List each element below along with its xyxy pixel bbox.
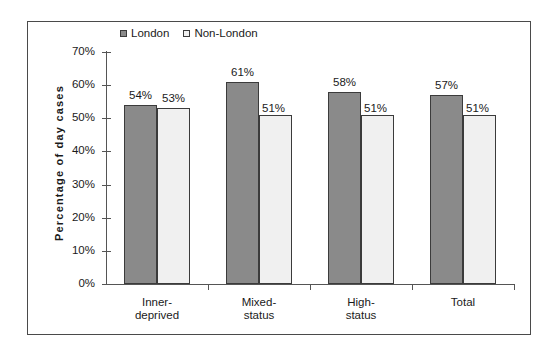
bar-non-london	[361, 115, 394, 284]
bar-london	[226, 82, 259, 284]
bar-value-label: 54%	[129, 90, 152, 102]
bar-london	[124, 105, 157, 284]
y-axis-title: Percentage of day cases	[53, 63, 65, 263]
y-tick-label: 30%	[72, 178, 95, 190]
y-tick: 70%	[102, 52, 111, 53]
x-tick	[208, 284, 209, 290]
legend-swatch-non-london	[183, 30, 190, 37]
plot-area: 0%10%20%30%40%50%60%70% 54%53%61%51%58%5…	[106, 52, 514, 284]
bar-value-label: 53%	[162, 93, 185, 105]
x-tick	[514, 284, 515, 290]
y-tick-label: 10%	[72, 244, 95, 256]
y-tick-label: 60%	[72, 78, 95, 90]
bar-non-london	[259, 115, 292, 284]
y-tick-label: 70%	[72, 45, 95, 57]
y-tick: 20%	[102, 218, 111, 219]
y-tick: 30%	[102, 185, 111, 186]
x-category-label: Total	[412, 296, 514, 309]
bar-value-label: 51%	[466, 103, 489, 115]
bar-value-label: 51%	[364, 103, 387, 115]
y-tick: 40%	[102, 151, 111, 152]
bar-non-london	[463, 115, 496, 284]
x-category-label: Inner- deprived	[106, 296, 208, 322]
bar-value-label: 58%	[333, 77, 356, 89]
x-tick	[310, 284, 311, 290]
chart-frame: London Non-London Percentage of day case…	[27, 21, 531, 335]
bar-non-london	[157, 108, 190, 284]
y-tick-label: 20%	[72, 211, 95, 223]
legend-label-non-london: Non-London	[194, 28, 257, 40]
legend-swatch-london	[120, 30, 127, 37]
bar-london	[430, 95, 463, 284]
bar-value-label: 51%	[262, 103, 285, 115]
x-category-label: Mixed- status	[208, 296, 310, 322]
chart-legend: London Non-London	[120, 28, 258, 40]
legend-item-london: London	[120, 28, 169, 40]
y-tick-label: 0%	[78, 277, 95, 289]
bar-value-label: 61%	[231, 67, 254, 79]
y-tick: 60%	[102, 85, 111, 86]
x-category-label: High- status	[310, 296, 412, 322]
y-tick-label: 50%	[72, 111, 95, 123]
bar-london	[328, 92, 361, 284]
x-tick	[412, 284, 413, 290]
y-tick: 10%	[102, 251, 111, 252]
y-tick: 50%	[102, 118, 111, 119]
legend-label-london: London	[131, 28, 169, 40]
legend-item-non-london: Non-London	[183, 28, 257, 40]
y-tick: 0%	[102, 284, 111, 285]
bar-value-label: 57%	[435, 80, 458, 92]
y-tick-label: 40%	[72, 144, 95, 156]
